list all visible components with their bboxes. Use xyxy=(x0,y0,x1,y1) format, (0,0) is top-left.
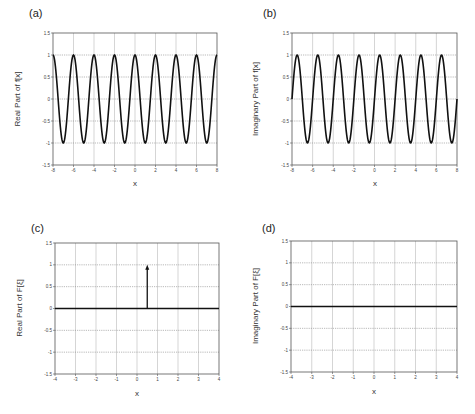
plot-area-a: -8-6-4-2024681.510.50-0.5-1-1.5 xyxy=(42,31,219,173)
x-tick-label: 0 xyxy=(136,377,139,382)
y-tick-label: -0.5 xyxy=(44,328,52,333)
x-tick-label: -4 xyxy=(331,168,335,173)
y-tick-label: 1 xyxy=(49,262,52,267)
ylabel-d: Imaginary Part of F[ξ] xyxy=(251,268,260,344)
x-tick-label: 3 xyxy=(435,375,438,380)
x-tick-label: 0 xyxy=(373,375,376,380)
x-tick-label: -4 xyxy=(289,375,293,380)
x-tick-label: 2 xyxy=(177,377,180,382)
y-tick-label: 1.5 xyxy=(283,31,290,36)
x-tick-label: -3 xyxy=(310,375,314,380)
plot-area-b: -8-6-4-2024681.510.50-0.5-1-1.5 xyxy=(281,31,459,173)
y-tick-label: -0.5 xyxy=(281,119,289,124)
x-tick-label: 3 xyxy=(197,377,200,382)
y-tick-label: -1.5 xyxy=(44,372,52,377)
x-tick-label: 6 xyxy=(435,168,438,173)
y-tick-label: -1.5 xyxy=(42,163,50,168)
y-tick-label: 0 xyxy=(286,97,289,102)
y-tick-label: -1.5 xyxy=(280,370,288,375)
y-tick-label: 1.5 xyxy=(46,241,53,246)
x-tick-label: -2 xyxy=(94,377,98,382)
y-tick-label: -0.5 xyxy=(42,119,50,124)
y-tick-label: -0.5 xyxy=(280,326,288,331)
y-tick-label: 1.5 xyxy=(282,239,289,244)
x-tick-label: 4 xyxy=(175,168,178,173)
x-tick-label: -6 xyxy=(311,168,315,173)
x-tick-label: 0 xyxy=(373,168,376,173)
y-tick-label: 0.5 xyxy=(44,75,51,80)
xlabel-c: x xyxy=(135,389,139,398)
y-tick-label: 0 xyxy=(47,97,50,102)
x-tick-label: 2 xyxy=(414,375,417,380)
x-tick-label: -4 xyxy=(92,168,96,173)
x-tick-label: 4 xyxy=(414,168,417,173)
x-tick-label: -6 xyxy=(71,168,75,173)
y-tick-label: -1 xyxy=(48,350,52,355)
x-tick-label: -1 xyxy=(351,375,355,380)
x-tick-label: 8 xyxy=(456,168,459,173)
y-tick-label: -1.5 xyxy=(281,163,289,168)
y-tick-label: 0 xyxy=(49,306,52,311)
y-tick-label: 1.5 xyxy=(44,31,51,36)
y-tick-label: 1 xyxy=(285,260,288,265)
y-tick-label: 1 xyxy=(47,53,50,58)
y-tick-label: 1 xyxy=(286,53,289,58)
ylabel-a: Real Part of f[x] xyxy=(13,71,22,126)
y-tick-label: -1 xyxy=(285,141,289,146)
x-tick-label: 8 xyxy=(216,168,219,173)
xlabel-d: x xyxy=(372,387,376,396)
y-tick-label: -1 xyxy=(46,141,50,146)
panel-label-c: (c) xyxy=(31,222,44,234)
x-tick-label: 2 xyxy=(154,168,157,173)
y-tick-label: 0.5 xyxy=(46,284,53,289)
x-tick-label: -2 xyxy=(352,168,356,173)
x-tick-label: 4 xyxy=(456,375,459,380)
panel-label-b: (b) xyxy=(263,7,276,19)
x-tick-label: 6 xyxy=(195,168,198,173)
plot-area-d: -4-3-2-1012341.510.50-0.5-1-1.5 xyxy=(280,239,459,380)
y-tick-label: 0.5 xyxy=(283,75,290,80)
x-tick-label: 2 xyxy=(394,168,397,173)
y-tick-label: 0 xyxy=(285,304,288,309)
plot-area-c: -4-3-2-1012341.510.50-0.5-1-1.5 xyxy=(44,241,221,382)
x-tick-label: 1 xyxy=(156,377,159,382)
x-tick-label: 4 xyxy=(218,377,221,382)
panel-label-d: (d) xyxy=(262,222,275,234)
x-tick-label: -8 xyxy=(290,168,294,173)
y-tick-label: 0.5 xyxy=(282,282,289,287)
panel-label-a: (a) xyxy=(29,7,42,19)
x-tick-label: 1 xyxy=(393,375,396,380)
x-tick-label: -1 xyxy=(114,377,118,382)
xlabel-b: x xyxy=(373,179,377,188)
y-tick-label: -1 xyxy=(284,348,288,353)
figure: (a) (b) (c) (d) Real Part of f[x] x Imag… xyxy=(0,0,475,414)
x-tick-label: -3 xyxy=(73,377,77,382)
xlabel-a: x xyxy=(133,179,137,188)
x-tick-label: 0 xyxy=(134,168,137,173)
x-tick-label: -4 xyxy=(53,377,57,382)
ylabel-b: Imaginary Part of f[x] xyxy=(251,62,260,136)
x-tick-label: -2 xyxy=(330,375,334,380)
delta-arrow-head-icon xyxy=(145,265,149,270)
x-tick-label: -2 xyxy=(112,168,116,173)
x-tick-label: -8 xyxy=(51,168,55,173)
ylabel-c: Real Part of F[ξ] xyxy=(15,279,24,336)
